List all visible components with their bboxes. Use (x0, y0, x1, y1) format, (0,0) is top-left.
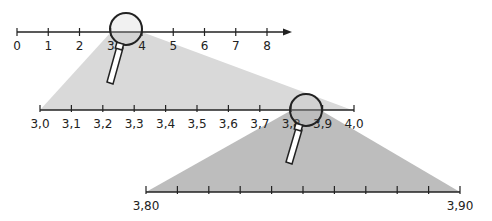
end-label: 3,90 (447, 199, 474, 213)
tick-label: 6 (201, 39, 209, 53)
tick-label: 3,5 (187, 117, 206, 131)
tick-label: 3,0 (30, 117, 49, 131)
number-line-zoom-diagram: 012345678 3,03,13,23,33,43,53,63,73,83,9… (0, 0, 492, 221)
tick-label: 3,2 (93, 117, 112, 131)
tick-label: 3,1 (62, 117, 81, 131)
tick-label: 3,4 (156, 117, 175, 131)
tick-label: 2 (76, 39, 84, 53)
tick-label: 7 (232, 39, 240, 53)
tick-label: 4 (138, 39, 146, 53)
tick-label: 5 (169, 39, 177, 53)
tick-label: 1 (44, 39, 52, 53)
tick-label: 0 (13, 39, 21, 53)
start-label: 3,80 (133, 199, 160, 213)
tick-label: 3,7 (250, 117, 269, 131)
tick-label: 8 (263, 39, 271, 53)
tick-label: 3,3 (125, 117, 144, 131)
tick-label: 3,6 (219, 117, 238, 131)
tick-label: 4,0 (344, 117, 363, 131)
tick-label: 3 (107, 39, 115, 53)
